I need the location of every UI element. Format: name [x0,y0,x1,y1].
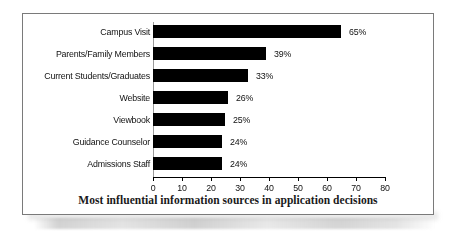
bar-value-label: 24% [230,158,247,169]
bar-value-label: 39% [274,48,291,59]
bar-value-label: 25% [233,114,250,125]
bar [153,25,341,38]
x-axis-tick [327,177,328,181]
bar [153,157,222,170]
x-axis-tick-label: 80 [374,182,396,193]
category-label: Website [0,92,150,103]
x-axis-tick [182,177,183,181]
bar [153,113,225,126]
x-axis-tick [153,177,154,181]
category-label: Viewbook [0,114,150,125]
x-axis-tick [211,177,212,181]
x-axis-tick [356,177,357,181]
x-axis-tick [298,177,299,181]
bar-value-label: 65% [349,26,366,37]
x-axis-tick-label: 10 [171,182,193,193]
bar-value-label: 26% [236,92,253,103]
bar-row: Current Students/Graduates 33% [23,68,433,90]
bar [153,91,228,104]
category-label: Guidance Counselor [0,136,150,147]
x-axis-tick [240,177,241,181]
category-label: Parents/Family Members [0,48,150,59]
category-label: Campus Visit [0,26,150,37]
category-label: Admissions Staff [0,158,150,169]
category-label: Current Students/Graduates [0,70,150,81]
bar-row: Website 26% [23,90,433,112]
bar-value-label: 33% [256,70,273,81]
x-axis-tick-label: 70 [345,182,367,193]
bar [153,135,222,148]
x-axis-tick [385,177,386,181]
x-axis-tick-label: 0 [142,182,164,193]
chart-caption: Most influential information sources in … [23,194,433,206]
x-axis-tick [269,177,270,181]
bar-row: Parents/Family Members 39% [23,46,433,68]
bar [153,47,266,60]
x-axis-tick-label: 40 [258,182,280,193]
bar-row: Campus Visit 65% [23,24,433,46]
bar-row: Viewbook 25% [23,112,433,134]
figure-page: Campus Visit 65% Parents/Family Members … [0,0,452,238]
plot-area: Campus Visit 65% Parents/Family Members … [23,14,433,214]
page-shadow [34,218,436,229]
bar-value-label: 24% [230,136,247,147]
x-axis-tick-label: 50 [287,182,309,193]
x-axis-tick-label: 20 [200,182,222,193]
x-axis-tick-label: 60 [316,182,338,193]
chart-frame: Campus Visit 65% Parents/Family Members … [22,13,434,215]
bar-row: Admissions Staff 24% [23,156,433,178]
bar-row: Guidance Counselor 24% [23,134,433,156]
bar [153,69,248,82]
x-axis-tick-label: 30 [229,182,251,193]
